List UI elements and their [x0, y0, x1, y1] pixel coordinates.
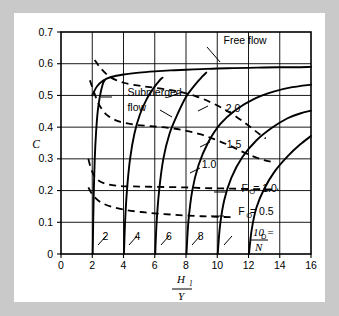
chart-annotation-label: F — [238, 205, 244, 217]
chart-curve — [88, 159, 278, 189]
x-axis-title-numerator: H — [176, 273, 186, 285]
chart-annotation-label: 1.5 — [227, 138, 242, 150]
chart-svg: 0246810121416 00.10.20.30.40.50.60.7 Fre… — [0, 0, 339, 316]
y-tick-label: 0.7 — [38, 26, 53, 38]
y-tick-label: 0 — [47, 248, 53, 260]
figure-page: 0246810121416 00.10.20.30.40.50.60.7 Fre… — [0, 0, 339, 316]
x-tick-label: 6 — [152, 259, 158, 271]
y-tick-label: 0.4 — [38, 121, 53, 133]
chart-annotation-label: Submerged — [127, 86, 181, 98]
y-axis-title-text: C — [32, 138, 40, 150]
chart-annotation-label: F — [241, 182, 247, 194]
y-tick-label: 0.5 — [38, 89, 53, 101]
chart-curve — [88, 187, 233, 217]
dn-over-y-fraction: 10 = D N — [251, 226, 274, 253]
x-tick-label: 0 — [58, 259, 64, 271]
dn-denominator: N — [254, 241, 263, 253]
chart-annotation-label: 6 — [166, 230, 172, 242]
y-tick-labels: 00.10.20.30.40.50.60.7 — [38, 26, 53, 260]
x-axis-title: H 1 Y — [172, 273, 193, 302]
x-axis-title-numerator-subscript: 1 — [189, 279, 193, 288]
x-tick-labels: 0246810121416 — [58, 259, 317, 271]
y-tick-label: 0.6 — [38, 57, 53, 69]
chart-annotation-label: = 0.5 — [250, 205, 274, 217]
chart-annotation-label: 1.0 — [202, 158, 217, 170]
x-tick-label: 12 — [243, 259, 255, 271]
y-tick-label: 0.1 — [38, 216, 53, 228]
x-tick-label: 10 — [211, 259, 223, 271]
chart-curve — [93, 80, 105, 254]
x-tick-label: 14 — [274, 259, 286, 271]
chart-annotation-label: = 1.0 — [253, 182, 277, 194]
chart-annotation-label: 2 — [102, 230, 108, 242]
x-tick-label: 2 — [89, 259, 95, 271]
chart-annotation-label: 2.0 — [226, 102, 241, 114]
chart-annotation-label: Free flow — [224, 34, 268, 46]
chart-annotation-label: flow — [127, 101, 146, 113]
x-tick-label: 16 — [305, 259, 317, 271]
annotation-leaders — [98, 47, 232, 245]
x-tick-label: 4 — [121, 259, 127, 271]
chart-annotation-label: 4 — [134, 230, 140, 242]
chart-curves — [88, 60, 311, 254]
y-tick-label: 0.2 — [38, 184, 53, 196]
chart-annotation-label: 8 — [198, 230, 204, 242]
y-tick-label: 0.3 — [38, 152, 53, 164]
x-axis-title-denominator: Y — [178, 290, 186, 302]
x-tick-label: 8 — [183, 259, 189, 271]
y-axis-title: C — [32, 138, 40, 150]
